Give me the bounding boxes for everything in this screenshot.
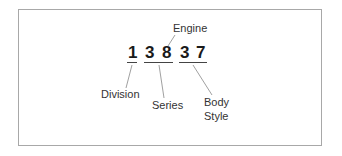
digit-body-1: 3 (180, 44, 189, 62)
underline-division (127, 62, 137, 63)
label-engine: Engine (173, 22, 207, 35)
label-body: Body (204, 96, 229, 109)
label-series: Series (152, 99, 183, 112)
digit-division: 1 (128, 44, 137, 62)
digit-series-2-engine: 8 (162, 44, 171, 62)
label-division: Division (101, 88, 140, 101)
underline-body-style (179, 62, 207, 63)
diagram-frame (18, 9, 322, 146)
digit-body-2: 7 (196, 44, 205, 62)
underline-series (144, 62, 173, 63)
digit-series-1: 3 (145, 44, 154, 62)
label-style: Style (204, 110, 228, 123)
